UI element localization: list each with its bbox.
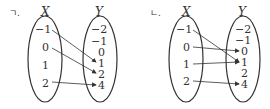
mapping-diagrams: ㄱ. X Y −1 0 1 2 −2 −1 0 1 2 4 ㄴ. X Y −1 … bbox=[0, 0, 270, 109]
domain-label: X bbox=[40, 5, 50, 19]
mapping-arrow bbox=[193, 30, 239, 62]
domain-element: 0 bbox=[183, 41, 190, 54]
codomain-element: 4 bbox=[98, 79, 105, 92]
domain-element: 0 bbox=[42, 41, 49, 54]
codomain-element: 4 bbox=[241, 78, 248, 91]
mapping-arrow bbox=[193, 62, 239, 64]
domain-element: 1 bbox=[183, 58, 190, 71]
mapping-arrow bbox=[193, 47, 239, 51]
mapping-arrow bbox=[52, 30, 96, 62]
diagram-tag: ㄴ. bbox=[150, 8, 161, 18]
domain-element: −1 bbox=[176, 23, 192, 36]
codomain-label: Y bbox=[95, 5, 104, 19]
domain-element: 1 bbox=[42, 59, 49, 72]
mapping-arrow bbox=[52, 48, 96, 73]
diagram-b: ㄴ. X Y −1 0 1 2 −2 −1 0 1 2 4 bbox=[150, 5, 260, 102]
diagram-a: ㄱ. X Y −1 0 1 2 −2 −1 0 1 2 4 bbox=[9, 5, 117, 102]
domain-element: 2 bbox=[183, 75, 190, 88]
domain-label: X bbox=[181, 5, 191, 19]
domain-element: 2 bbox=[42, 77, 49, 90]
domain-element: −1 bbox=[35, 23, 51, 36]
diagram-tag: ㄱ. bbox=[9, 8, 20, 18]
codomain-label: Y bbox=[238, 5, 247, 19]
